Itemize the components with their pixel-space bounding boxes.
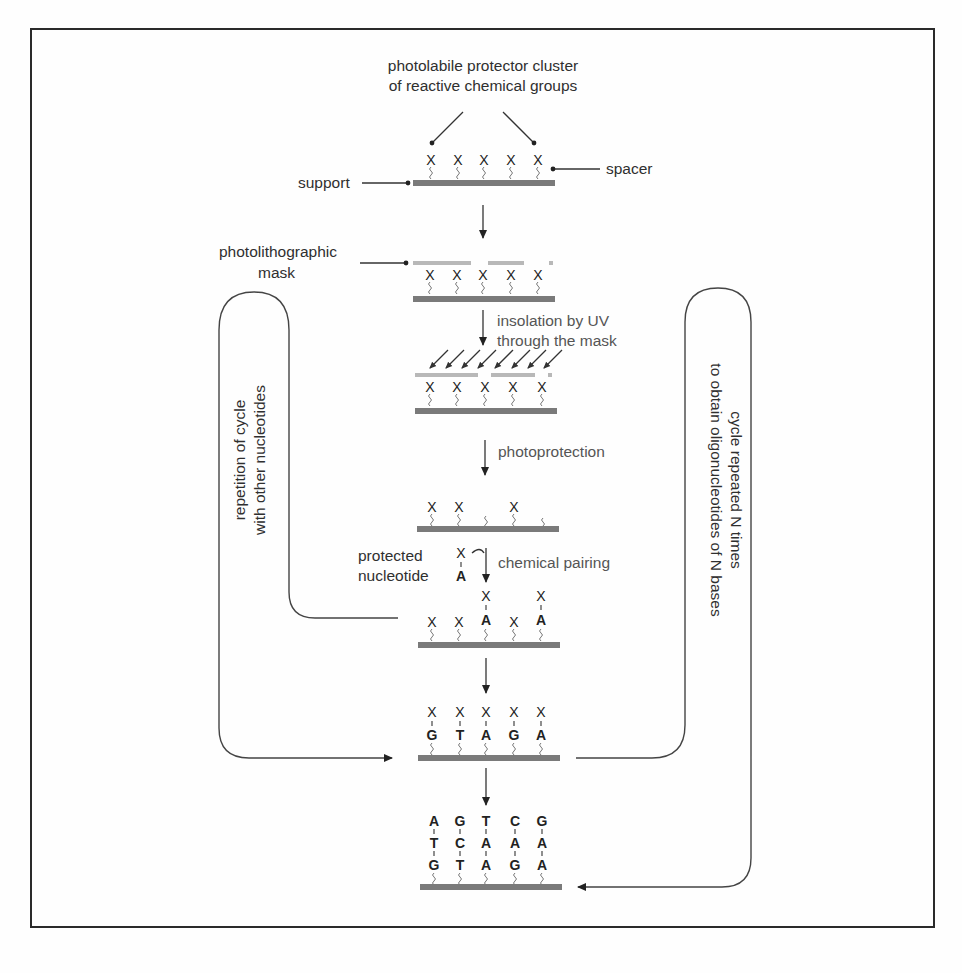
base-letter: T <box>482 813 491 829</box>
support-bar <box>418 642 560 648</box>
protector-x: X <box>509 704 519 720</box>
protector-x: X <box>508 379 518 395</box>
insolation-label-line-1: insolation by UV <box>497 312 610 329</box>
pointer-line-left <box>432 112 463 143</box>
stage-initial: X X X X X <box>413 152 555 186</box>
protected-label-line-1: protected <box>358 547 423 564</box>
chemical-pairing-label: chemical pairing <box>498 554 610 571</box>
mask-segment <box>491 373 535 377</box>
protector-x: X <box>533 267 543 283</box>
base-letter: A <box>429 813 439 829</box>
protector-x: X <box>478 267 488 283</box>
mask-segment <box>548 373 552 377</box>
mask-label-line-2: mask <box>258 264 295 281</box>
right-loop-label-line-2: to obtain oligonucleotides of N bases <box>708 363 725 617</box>
right-loop-label-line-1: cycle repeated N times <box>728 411 745 569</box>
protector-x: X <box>506 267 516 283</box>
protector-x: X <box>481 704 491 720</box>
support-bar <box>413 296 555 302</box>
support-bar <box>415 408 557 414</box>
mask-segment <box>415 373 478 377</box>
support-bar <box>418 755 560 761</box>
base-letter: C <box>510 813 520 829</box>
base-letter: G <box>455 813 466 829</box>
pairing-curve <box>472 550 484 554</box>
base-letter: A <box>536 612 546 628</box>
protector-x: X <box>481 588 491 604</box>
protector-x: X <box>426 152 436 168</box>
base-letter: A <box>510 835 520 851</box>
protector-x: X <box>425 379 435 395</box>
protector-x: X <box>479 152 489 168</box>
pointer-line-right <box>503 112 534 143</box>
protector-x: X <box>452 267 462 283</box>
protector-x: X <box>536 704 546 720</box>
base-letter: T <box>456 857 465 873</box>
protector-x: X <box>425 267 435 283</box>
base-letter: T <box>430 835 439 851</box>
protector-x: X <box>452 379 462 395</box>
base-letter: A <box>536 727 546 743</box>
support-bar <box>420 884 562 890</box>
protector-x: X <box>427 704 437 720</box>
mask-segment <box>549 261 553 265</box>
title-line-2: of reactive chemical groups <box>389 77 578 94</box>
protector-x: X <box>454 614 464 630</box>
photoprotection-label: photoprotection <box>498 443 605 460</box>
title-line-1: photolabile protector cluster <box>388 57 578 74</box>
mask-label-line-1: photolithographic <box>219 243 337 260</box>
base-letter: A <box>481 612 491 628</box>
stage-masked: X X X X X <box>413 261 555 302</box>
protector-x: X <box>536 588 546 604</box>
stage-photoprotection: X X X <box>417 499 559 532</box>
mask-segment <box>488 261 524 265</box>
base-letter: G <box>429 857 440 873</box>
protector-x: X <box>456 545 466 561</box>
protector-x: X <box>480 379 490 395</box>
base-letter: A <box>481 857 491 873</box>
synthesis-diagram: photolabile protector cluster of reactiv… <box>0 0 962 973</box>
protector-x: X <box>509 499 519 515</box>
base-letter: G <box>427 727 438 743</box>
mask-segment <box>413 261 471 265</box>
base-letter: A <box>456 568 466 584</box>
insolation-label-line-2: through the mask <box>497 332 617 349</box>
base-letter: G <box>509 727 520 743</box>
protected-nucleotide: X A <box>456 545 466 584</box>
protected-label-line-2: nucleotide <box>358 567 429 584</box>
base-letter: A <box>537 857 547 873</box>
stage-second-layer: X X X X X G T A G A <box>418 704 560 761</box>
left-loop-label-line-1: repetition of cycle <box>231 400 248 521</box>
uv-rays <box>430 350 562 368</box>
base-letter: A <box>537 835 547 851</box>
support-bar <box>413 180 555 186</box>
base-letter: C <box>455 835 465 851</box>
protector-x: X <box>509 614 519 630</box>
left-loop-label-line-2: with other nucleotides <box>251 385 268 536</box>
spacer-label: spacer <box>606 160 653 177</box>
base-letter: G <box>510 857 521 873</box>
support-label: support <box>298 174 350 191</box>
base-letter: T <box>456 727 465 743</box>
support-bar <box>417 526 559 532</box>
protector-x: X <box>506 152 516 168</box>
stage-final: A G T C G T C A A A G T A G A <box>420 813 562 890</box>
base-letter: G <box>537 813 548 829</box>
repetition-loop-arrow <box>219 292 398 758</box>
protector-x: X <box>427 499 437 515</box>
protector-x: X <box>537 379 547 395</box>
stage-paired: X X X A X X A <box>418 588 560 648</box>
protector-x: X <box>427 614 437 630</box>
protector-x: X <box>453 152 463 168</box>
protector-x: X <box>533 152 543 168</box>
base-letter: A <box>481 835 491 851</box>
protector-x: X <box>455 704 465 720</box>
base-letter: A <box>481 727 491 743</box>
stage-insolation: X X X X X <box>415 350 562 414</box>
protector-x: X <box>454 499 464 515</box>
